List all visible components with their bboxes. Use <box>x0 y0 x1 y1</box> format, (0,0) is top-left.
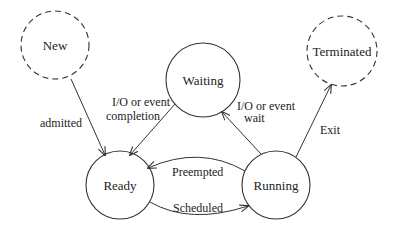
label-scheduled: Scheduled <box>173 201 223 215</box>
label-io-wait-line2: wait <box>244 111 265 125</box>
transition-exit: Exit <box>296 85 341 157</box>
label-admitted: admitted <box>40 116 82 130</box>
label-exit: Exit <box>320 123 341 137</box>
label-io-completion-line1: I/O or event <box>112 95 171 109</box>
transition-scheduled: Scheduled <box>150 201 248 215</box>
state-ready: Ready <box>86 151 154 219</box>
state-new: New <box>21 11 89 79</box>
transition-io-wait: I/O or event wait <box>222 99 296 154</box>
arrow-running-to-terminated <box>296 85 331 157</box>
state-terminated: Terminated <box>307 16 377 86</box>
state-running: Running <box>242 151 310 219</box>
state-waiting: Waiting <box>166 43 240 117</box>
transition-io-completion: I/O or event completion <box>106 95 175 155</box>
state-terminated-label: Terminated <box>312 44 372 59</box>
label-preempted: Preempted <box>172 165 223 179</box>
label-io-completion-line2: completion <box>106 109 160 123</box>
transition-admitted: admitted <box>40 79 105 155</box>
process-state-diagram: New Waiting Terminated Ready Running adm… <box>0 0 396 232</box>
state-new-label: New <box>43 38 68 53</box>
state-waiting-label: Waiting <box>183 73 224 88</box>
state-ready-label: Ready <box>103 178 137 193</box>
state-running-label: Running <box>254 178 299 193</box>
transition-preempted: Preempted <box>148 157 245 179</box>
